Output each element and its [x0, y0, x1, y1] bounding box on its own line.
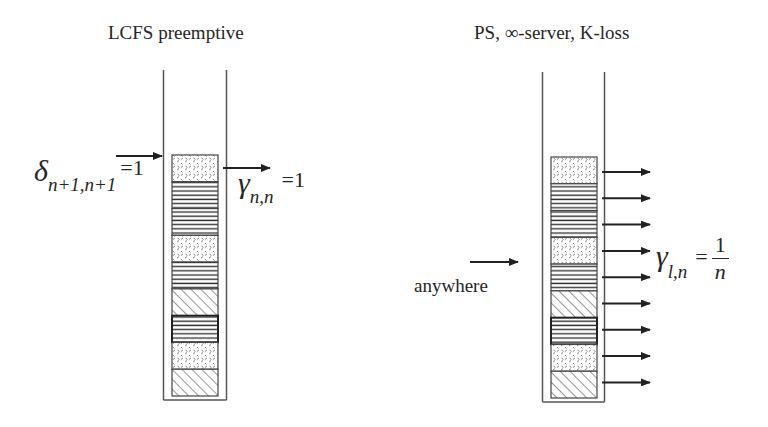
- right-job-stack: [551, 157, 597, 398]
- fraction: 1 n: [712, 232, 729, 285]
- job-block-dots: [551, 344, 597, 371]
- job-block-lines: [172, 209, 218, 236]
- delta-subscript: n+1,n+1: [48, 174, 116, 195]
- diagram-canvas: LCFS preemptive δn+1,n+1 =1 γn,n =1 PS, …: [0, 0, 768, 427]
- gamma-symbol: γ: [238, 166, 250, 199]
- gamma-subscript: n,n: [250, 186, 274, 207]
- job-block-dots: [551, 157, 597, 184]
- left-output-rate-label: γn,n =1: [238, 166, 305, 200]
- diagram-graphics: [0, 0, 768, 427]
- gamma-symbol: γ: [656, 239, 668, 272]
- right-panel-title: PS, ∞-server, K-loss: [474, 22, 629, 44]
- left-job-stack: [172, 155, 218, 396]
- gamma-equals: =: [695, 244, 707, 269]
- job-block-dots: [551, 237, 597, 264]
- job-block-lines: [551, 211, 597, 238]
- job-block-hatch: [172, 369, 218, 396]
- left-input-rate-label: δn+1,n+1 =1: [34, 154, 144, 188]
- job-block-dots: [172, 342, 218, 369]
- job-block-hatch: [551, 371, 597, 398]
- job-block-hatch: [172, 289, 218, 316]
- right-output-arrows: [602, 172, 650, 382]
- gamma-equals: =1: [282, 167, 305, 192]
- job-block-dots: [172, 155, 218, 182]
- job-block-lines: [172, 262, 218, 289]
- job-block-lines: [172, 182, 218, 209]
- left-panel-title: LCFS preemptive: [108, 22, 244, 44]
- right-output-rate-label: γl,n = 1 n: [656, 236, 729, 289]
- job-block-lines-dark: [551, 318, 597, 345]
- job-block-lines: [551, 264, 597, 291]
- job-block-lines-dark: [172, 316, 218, 343]
- job-block-lines: [551, 184, 597, 211]
- fraction-denominator: n: [712, 259, 729, 285]
- delta-equals: =1: [120, 155, 143, 180]
- gamma-subscript: l,n: [668, 261, 688, 282]
- fraction-numerator: 1: [712, 232, 729, 259]
- right-input-label: anywhere: [414, 275, 488, 297]
- job-block-dots: [172, 235, 218, 262]
- delta-symbol: δ: [34, 154, 48, 187]
- job-block-hatch: [551, 291, 597, 318]
